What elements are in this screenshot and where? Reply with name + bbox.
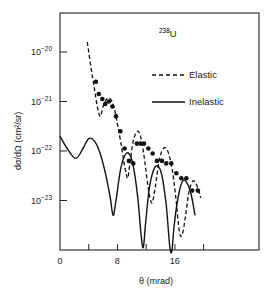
data-point	[107, 99, 112, 104]
data-point	[184, 176, 189, 181]
data-point	[142, 141, 147, 146]
data-point	[100, 97, 105, 102]
data-point	[110, 104, 115, 109]
legend-inelastic-label: Inelastic	[189, 96, 224, 107]
x-axis-label: θ (mrad)	[139, 276, 173, 286]
inelastic-curve	[60, 136, 195, 253]
data-point	[174, 171, 179, 176]
data-point	[150, 151, 155, 156]
legend-elastic-label: Elastic	[189, 69, 217, 80]
isotope-annotation: 238U	[159, 27, 177, 39]
y-tick-label: 10−23	[31, 194, 52, 206]
data-point	[155, 159, 160, 164]
elastic-curve	[87, 42, 200, 236]
legend: Elastic Inelastic	[152, 69, 224, 107]
data-point	[190, 188, 195, 193]
data-point	[131, 161, 136, 166]
cross-section-chart: 0816 10−2010−2110−2210−23 238U Elastic I…	[0, 0, 274, 298]
y-tick-label: 10−22	[31, 144, 52, 156]
y-tick-label: 10−21	[31, 95, 52, 107]
plot-frame	[60, 13, 259, 250]
data-point	[146, 146, 151, 151]
y-axis-label: dσ/dΩ (cm²/sr)	[13, 112, 23, 170]
data-point	[169, 161, 174, 166]
data-point	[127, 159, 132, 164]
data-point	[160, 159, 165, 164]
x-tick-label: 0	[57, 256, 62, 266]
data-point	[114, 114, 119, 119]
x-axis-ticks: 0816	[57, 244, 203, 266]
data-point	[179, 176, 184, 181]
x-tick-label: 16	[170, 256, 180, 266]
data-point	[122, 146, 127, 151]
data-point	[196, 188, 201, 193]
data-point	[94, 79, 99, 84]
data-point	[164, 161, 169, 166]
data-point	[118, 129, 123, 134]
x-tick-label: 8	[115, 256, 120, 266]
y-axis-ticks: 10−2010−2110−2210−23	[31, 45, 67, 206]
data-point	[96, 92, 101, 97]
y-tick-label: 10−20	[31, 45, 52, 57]
